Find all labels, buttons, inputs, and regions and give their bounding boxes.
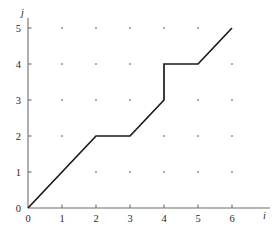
x-tick-label: 1 <box>59 213 64 224</box>
x-tick-label: 5 <box>195 213 200 224</box>
grid-dot <box>95 171 97 173</box>
line-chart: 0123456 012345 i j <box>0 0 279 234</box>
grid-dot <box>95 63 97 65</box>
grid-dot <box>61 135 63 137</box>
x-tick-label: 0 <box>25 213 30 224</box>
grid-dot <box>61 99 63 101</box>
grid-dot <box>129 27 131 29</box>
y-tick-label: 3 <box>16 95 21 106</box>
grid-dot <box>95 27 97 29</box>
y-tick-label: 1 <box>16 167 21 178</box>
grid-dot <box>231 99 233 101</box>
grid-dot <box>163 171 165 173</box>
grid-dot <box>197 27 199 29</box>
chart-background <box>0 0 279 234</box>
y-tick-label: 0 <box>16 203 21 214</box>
x-tick-label: 4 <box>161 213 167 224</box>
grid-dot <box>231 63 233 65</box>
grid-dot <box>231 171 233 173</box>
grid-dot <box>197 171 199 173</box>
grid-dot <box>197 135 199 137</box>
grid-dot <box>197 99 199 101</box>
figure-container: 0123456 012345 i j <box>0 0 279 234</box>
grid-dot <box>129 171 131 173</box>
grid-dot <box>61 27 63 29</box>
x-tick-label: 2 <box>93 213 98 224</box>
y-tick-label: 4 <box>16 59 22 70</box>
grid-dot <box>163 135 165 137</box>
grid-dot <box>129 99 131 101</box>
grid-dot <box>61 63 63 65</box>
grid-dot <box>95 99 97 101</box>
grid-dot <box>129 63 131 65</box>
x-tick-label: 3 <box>127 213 132 224</box>
grid-dot <box>163 27 165 29</box>
y-tick-label: 2 <box>16 131 21 142</box>
x-axis-title: i <box>263 210 266 221</box>
x-tick-label: 6 <box>229 213 234 224</box>
y-tick-label: 5 <box>16 23 21 34</box>
grid-dot <box>231 135 233 137</box>
